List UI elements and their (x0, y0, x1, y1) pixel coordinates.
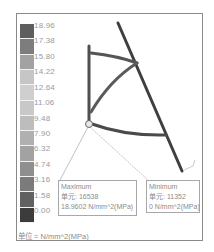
maximum-element: 单元: 16538 (61, 192, 134, 202)
member-bottom-chord (92, 124, 166, 135)
max-leader-line (60, 127, 88, 180)
min-marker (184, 160, 195, 170)
minimum-element: 单元: 11352 (149, 192, 197, 202)
minimum-title: Minimum (149, 182, 197, 192)
unit-label: 单位 = N/mm^2(MPa) (18, 230, 89, 241)
maximum-annotation: Maximum 单元: 16538 18.9602 N/mm^2(MPa) (58, 180, 137, 216)
maximum-value: 18.9602 N/mm^2(MPa) (61, 202, 134, 212)
minimum-value: 0 N/mm^2(MPa) (149, 202, 197, 212)
minimum-annotation: Minimum 单元: 11352 0 N/mm^2(MPa) (146, 180, 200, 213)
member-brace (91, 63, 137, 112)
max-stress-node (86, 121, 93, 128)
maximum-title: Maximum (61, 182, 134, 192)
member-diagonal-main (118, 23, 182, 171)
